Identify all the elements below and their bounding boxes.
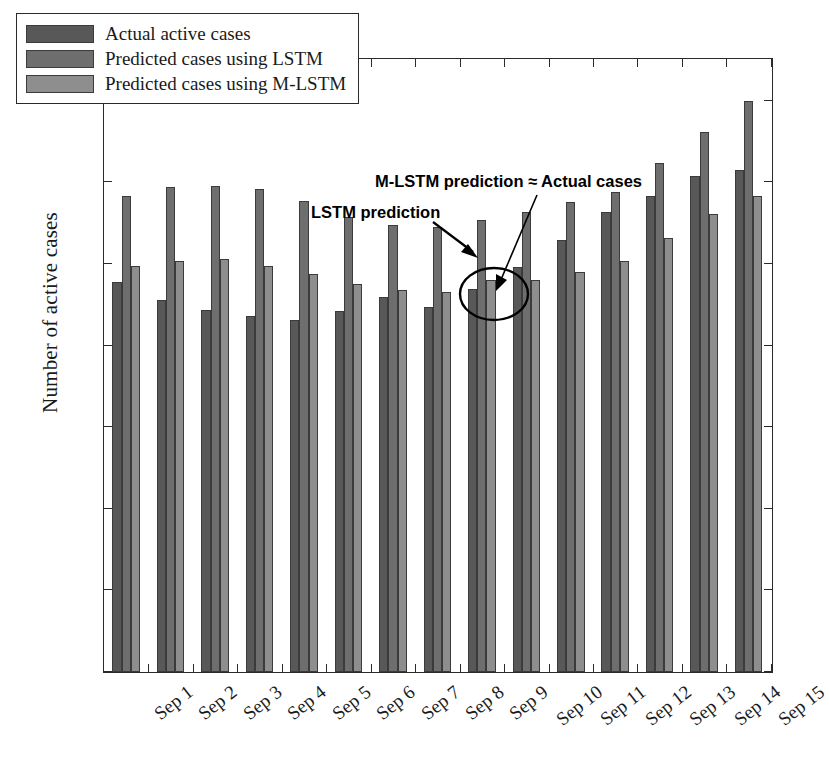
legend-label-2: Predicted cases using LSTM: [105, 48, 323, 70]
bar-sep-10-series-1: [513, 267, 522, 672]
bar-sep-3-series-3: [220, 259, 229, 672]
bar-group: [690, 59, 718, 672]
x-tick-top: [726, 59, 727, 67]
x-tick-bottom: [460, 664, 461, 672]
plot-inner: 00.511.522.533.5: [104, 59, 772, 672]
bar-group: [157, 59, 185, 672]
bar-sep-4-series-2: [255, 189, 264, 672]
legend: Actual active casesPredicted cases using…: [16, 13, 359, 104]
plot-area: 00.511.522.533.5: [103, 58, 773, 673]
annotation-mlstm-prediction: M-LSTM prediction ≈ Actual cases: [375, 172, 642, 191]
x-tick-top: [593, 59, 594, 67]
bar-sep-15-series-3: [753, 196, 762, 672]
legend-label-1: Actual active cases: [105, 23, 251, 45]
legend-swatch-3: [26, 75, 94, 93]
bar-sep-12-series-3: [620, 261, 629, 672]
bar-sep-3-series-1: [201, 310, 210, 672]
bar-sep-6-series-2: [344, 217, 353, 672]
x-tick-label-sep-4: Sep 4: [283, 681, 330, 725]
bar-group: [290, 59, 318, 672]
bar-group: [246, 59, 274, 672]
x-tick-label-sep-3: Sep 3: [239, 681, 286, 725]
bar-sep-10-series-3: [531, 280, 540, 672]
y-tick-right-3.5: [764, 100, 772, 101]
bar-sep-2-series-2: [166, 187, 175, 672]
x-tick-bottom: [371, 664, 372, 672]
x-tick-label-sep-12: Sep 12: [641, 681, 696, 731]
bar-sep-13-series-3: [664, 238, 673, 672]
y-tick-3: [104, 181, 112, 182]
bar-sep-4-series-3: [264, 266, 273, 672]
y-tick-2.5: [104, 263, 112, 264]
x-tick-label-sep-14: Sep 14: [730, 681, 785, 731]
annotation-lstm-prediction: LSTM prediction: [311, 203, 440, 222]
x-tick-bottom: [193, 664, 194, 672]
bar-sep-9-series-3: [486, 280, 495, 672]
bar-sep-9-series-1: [468, 289, 477, 672]
x-tick-label-sep-13: Sep 13: [685, 681, 740, 731]
x-tick-bottom: [549, 664, 550, 672]
bar-sep-8-series-1: [424, 307, 433, 672]
bar-sep-11-series-1: [557, 240, 566, 672]
bar-sep-2-series-1: [157, 300, 166, 672]
x-tick-label-sep-5: Sep 5: [328, 681, 375, 725]
x-tick-label-sep-11: Sep 11: [596, 681, 650, 730]
x-tick-top: [771, 59, 772, 67]
y-tick-right-2.5: [764, 263, 772, 264]
legend-swatch-2: [26, 50, 94, 68]
x-tick-bottom: [415, 664, 416, 672]
x-tick-bottom: [148, 664, 149, 672]
y-tick-0.5: [104, 589, 112, 590]
bar-group: [557, 59, 585, 672]
y-tick-right-1.5: [764, 426, 772, 427]
bar-sep-13-series-1: [646, 196, 655, 672]
x-tick-label-sep-10: Sep 10: [552, 681, 607, 731]
bar-group: [112, 59, 140, 672]
x-tick-bottom: [282, 664, 283, 672]
bar-sep-10-series-2: [522, 212, 531, 672]
bar-group: [201, 59, 229, 672]
x-tick-top: [415, 59, 416, 67]
bar-sep-1-series-2: [122, 196, 131, 672]
bar-group: [646, 59, 674, 672]
x-tick-bottom: [637, 664, 638, 672]
bar-sep-14-series-2: [700, 132, 709, 672]
legend-item: Predicted cases using LSTM: [26, 46, 346, 71]
legend-swatch-1: [26, 25, 94, 43]
bar-group: [424, 59, 452, 672]
x-tick-label-sep-1: Sep 1: [150, 681, 197, 725]
bar-sep-11-series-2: [566, 202, 575, 672]
y-tick-right-3: [764, 181, 772, 182]
bar-group: [735, 59, 763, 672]
bar-group: [468, 59, 496, 672]
bar-sep-12-series-2: [611, 192, 620, 672]
bar-sep-8-series-2: [433, 227, 442, 672]
bar-sep-8-series-3: [442, 292, 451, 672]
bar-sep-15-series-2: [744, 101, 753, 672]
bar-sep-5-series-3: [309, 274, 318, 672]
bar-group: [513, 59, 541, 672]
bar-sep-1-series-3: [131, 266, 140, 672]
x-tick-top: [682, 59, 683, 67]
bar-sep-15-series-1: [735, 170, 744, 672]
x-tick-top: [637, 59, 638, 67]
x-tick-bottom: [682, 664, 683, 672]
y-tick-right-1: [764, 508, 772, 509]
y-tick-2: [104, 345, 112, 346]
bar-sep-5-series-2: [299, 201, 308, 672]
bar-sep-12-series-1: [601, 212, 610, 672]
y-tick-right-0.5: [764, 589, 772, 590]
bar-sep-11-series-3: [575, 272, 584, 672]
bar-sep-7-series-3: [398, 290, 407, 672]
bar-sep-6-series-1: [335, 311, 344, 672]
bar-sep-7-series-1: [379, 297, 388, 672]
x-tick-bottom: [593, 664, 594, 672]
x-tick-label-sep-6: Sep 6: [372, 681, 419, 725]
bar-group: [379, 59, 407, 672]
y-axis-title: Number of active cases: [38, 173, 63, 453]
x-tick-top: [371, 59, 372, 67]
x-tick-bottom: [326, 664, 327, 672]
bar-sep-5-series-1: [290, 320, 299, 672]
bar-group: [601, 59, 629, 672]
